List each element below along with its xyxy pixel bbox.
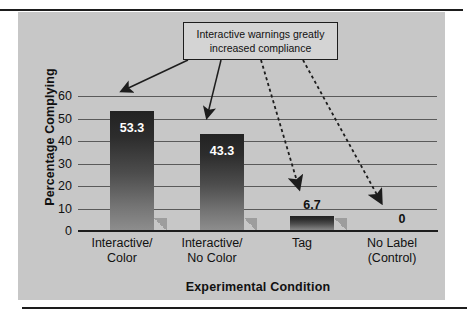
x-category-no-label-control-line1: No Label bbox=[340, 236, 444, 251]
bar-value-interactive-no-color: 43.3 bbox=[200, 145, 244, 158]
x-axis-line bbox=[78, 230, 438, 232]
x-category-no-label-control: No Label (Control) bbox=[340, 236, 444, 267]
bar-tag: 6.7 bbox=[290, 216, 334, 231]
annotation-callout-line1: Interactive warnings greatly bbox=[197, 27, 325, 41]
x-category-no-label-control-line2: (Control) bbox=[340, 251, 444, 266]
page-rule-bottom bbox=[22, 307, 467, 309]
y-axis-tick-labels: 60 50 40 30 20 10 0 bbox=[42, 96, 72, 231]
annotation-callout-line2: increased compliance bbox=[197, 41, 325, 55]
x-category-interactive-no-color: Interactive/ No Color bbox=[160, 236, 264, 267]
x-axis-title: Experimental Condition bbox=[78, 280, 438, 294]
bar-fill-tag bbox=[290, 216, 334, 231]
bar-fill-interactive-color: 53.3 bbox=[110, 111, 154, 231]
x-category-interactive-color: Interactive/ Color bbox=[70, 236, 174, 267]
y-tick-50: 50 bbox=[46, 112, 72, 125]
x-category-interactive-color-line2: Color bbox=[70, 251, 174, 266]
bar-value-interactive-color: 53.3 bbox=[110, 122, 154, 135]
x-category-interactive-no-color-line2: No Color bbox=[160, 251, 264, 266]
x-category-interactive-no-color-line1: Interactive/ bbox=[160, 236, 264, 251]
x-category-tag: Tag bbox=[250, 236, 354, 251]
y-tick-20: 20 bbox=[46, 180, 72, 193]
annotation-callout-box: Interactive warnings greatly increased c… bbox=[183, 22, 338, 60]
y-tick-0: 0 bbox=[46, 225, 72, 238]
x-category-interactive-color-line1: Interactive/ bbox=[70, 236, 174, 251]
arrow-to-interactive-color bbox=[122, 60, 188, 91]
gridline-60 bbox=[78, 96, 437, 97]
x-category-tag-line1: Tag bbox=[250, 236, 354, 251]
annotation-callout-text: Interactive warnings greatly increased c… bbox=[197, 27, 325, 55]
bar-chart-figure: Percentage Complying 60 50 40 30 20 10 0… bbox=[18, 12, 445, 300]
y-tick-30: 30 bbox=[46, 157, 72, 170]
bar-value-tag: 6.7 bbox=[290, 199, 334, 212]
bar-interactive-no-color: 43.3 bbox=[200, 134, 244, 231]
plot-area: 53.3 43.3 6.7 0 bbox=[78, 96, 437, 231]
page-rule-top bbox=[0, 9, 463, 11]
y-tick-10: 10 bbox=[46, 202, 72, 215]
y-tick-40: 40 bbox=[46, 135, 72, 148]
y-tick-60: 60 bbox=[46, 90, 72, 103]
bar-fill-interactive-no-color: 43.3 bbox=[200, 134, 244, 231]
bar-value-no-label-control: 0 bbox=[380, 213, 424, 226]
bar-interactive-color: 53.3 bbox=[110, 111, 154, 231]
